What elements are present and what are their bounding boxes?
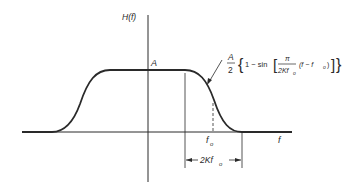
svg-text:o: o — [293, 70, 296, 76]
f0-label: f o — [206, 135, 214, 147]
svg-text:(f − f: (f − f — [299, 61, 314, 69]
svg-text:2Kf: 2Kf — [199, 155, 214, 165]
arrowhead-right-icon — [235, 158, 241, 162]
svg-text:{: { — [238, 56, 244, 73]
svg-text:A: A — [227, 52, 234, 62]
svg-text:o: o — [323, 64, 326, 70]
amplitude-label: A — [150, 58, 157, 68]
raised-cosine-filter-diagram: H(f) A f f o 2Kf o A 2 { 1 − sin [ π 2Kf… — [0, 0, 361, 189]
svg-text:): ) — [327, 61, 329, 69]
pointer-arrowhead-icon — [207, 78, 212, 85]
transfer-function-formula: A 2 { 1 − sin [ π 2Kf o (f − f o ) ] } — [227, 52, 342, 76]
svg-text:}: } — [336, 56, 342, 73]
svg-text:]: ] — [331, 56, 335, 73]
x-axis-label: f — [278, 135, 282, 145]
response-curve — [22, 70, 292, 132]
svg-text:2: 2 — [228, 65, 233, 75]
svg-text:o: o — [219, 161, 223, 167]
svg-text:1 − sin: 1 − sin — [245, 60, 267, 69]
span-label: 2Kf o — [199, 155, 223, 167]
arrowhead-left-icon — [186, 158, 192, 162]
svg-text:2Kf: 2Kf — [277, 67, 290, 74]
y-axis-label: H(f) — [122, 12, 136, 22]
formula-pointer — [209, 60, 222, 82]
svg-text:π: π — [285, 55, 290, 62]
svg-text:o: o — [210, 141, 214, 147]
